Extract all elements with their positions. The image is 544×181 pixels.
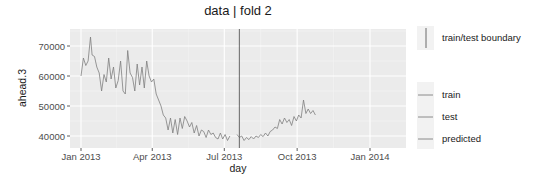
y-tick-label: 50000 — [39, 101, 65, 112]
legend-label-test: test — [442, 111, 458, 122]
x-tick-label: Jan 2014 — [350, 151, 389, 162]
x-tick-label: Oct 2013 — [278, 151, 317, 162]
chart-title: data | fold 2 — [204, 3, 272, 18]
y-tick-label: 70000 — [39, 41, 65, 52]
x-tick-label: Jan 2013 — [61, 151, 100, 162]
y-tick-label: 40000 — [39, 131, 65, 142]
legend-boundary: train/test boundary — [417, 26, 521, 50]
line-chart: data | fold 2 40000500006000070000 Jan 2… — [0, 0, 544, 181]
legend-label-train: train — [442, 89, 460, 100]
y-tick-label: 60000 — [39, 71, 65, 82]
x-tick-label: Apr 2013 — [133, 151, 172, 162]
legend-key-boundary — [417, 26, 434, 50]
y-axis: 40000500006000070000 — [39, 41, 70, 142]
legend-label-boundary: train/test boundary — [442, 32, 521, 43]
y-axis-title: ahead.3 — [16, 69, 28, 107]
x-tick-label: Jul 2013 — [206, 151, 242, 162]
legend-series: train test predicted — [417, 82, 481, 149]
x-axis: Jan 2013Apr 2013Jul 2013Oct 2013Jan 2014 — [61, 148, 389, 162]
plot-panel — [70, 29, 406, 148]
x-axis-title: day — [230, 162, 248, 174]
legend-label-predicted: predicted — [442, 133, 481, 144]
